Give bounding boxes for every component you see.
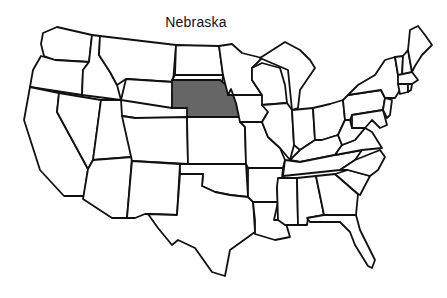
state-arizona[interactable] xyxy=(83,157,132,218)
state-wyoming[interactable] xyxy=(121,79,173,108)
state-massachusetts[interactable] xyxy=(398,72,418,84)
state-kansas[interactable] xyxy=(187,117,246,164)
state-mississippi[interactable] xyxy=(277,178,298,225)
state-rhode-island[interactable] xyxy=(408,84,412,92)
state-new-mexico[interactable] xyxy=(127,161,180,218)
state-north-dakota[interactable] xyxy=(175,45,223,75)
state-colorado[interactable] xyxy=(122,116,188,164)
state-washington[interactable] xyxy=(41,27,92,62)
state-new-york[interactable] xyxy=(348,57,400,98)
us-map xyxy=(0,0,447,298)
state-connecticut[interactable] xyxy=(398,84,408,94)
state-florida[interactable] xyxy=(307,215,375,268)
state-maine[interactable] xyxy=(408,26,432,72)
